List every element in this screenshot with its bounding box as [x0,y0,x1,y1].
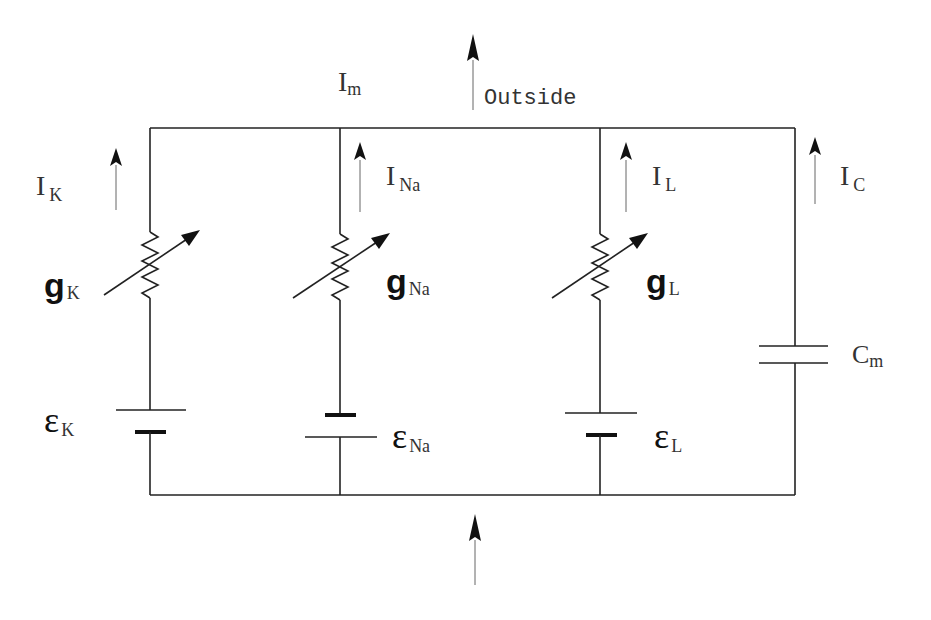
capacitive-current-label: IC [840,162,865,190]
sodium-branch [293,128,390,495]
outside-label: Outside [484,88,576,110]
label-sub: Na [399,175,420,195]
label-main: C [852,340,869,369]
variable-arrow-icon [104,237,190,295]
label-main: g [386,262,407,300]
capacitor-branch [759,128,828,495]
leak-branch [552,128,648,495]
circuit-diagram [0,0,931,620]
sodium-conductance-label: gNa [386,264,430,298]
label-sub: K [67,283,80,303]
membrane-current-label: Im [338,68,361,96]
label-sub: m [869,351,883,371]
label-main: I [386,160,395,191]
capacitive-current-arrow-icon [809,137,821,204]
label-sub: L [669,279,680,299]
label-sub: m [347,79,361,99]
potassium-emf-label: εK [44,402,74,438]
resistor-icon [592,234,608,300]
leak-emf-label: εL [654,418,682,454]
label-main: I [840,160,849,191]
sodium-current-arrow-icon [354,142,366,212]
membrane-capacitance-label: Cm [852,342,883,368]
label-sub: Na [409,436,430,456]
leak-current-arrow-icon [620,142,632,212]
label-sub: Na [409,279,430,299]
sodium-emf-label: εNa [392,418,430,454]
label-main: I [36,170,45,201]
label-main: I [652,160,661,191]
potassium-conductance-label: gK [44,268,80,302]
potassium-current-arrow-icon [110,148,122,210]
outside-current-arrow-icon [467,34,479,110]
label-sub: C [853,175,865,195]
sodium-current-label: INa [386,162,420,190]
label-sub: K [49,185,62,205]
label-main: g [44,266,65,304]
leak-conductance-label: gL [646,264,680,298]
label-main: ε [654,416,669,456]
label-sub: L [671,436,682,456]
resistor-icon [142,232,158,298]
label-main: I [338,66,347,97]
potassium-branch [104,128,200,495]
label-main: ε [44,400,59,440]
label-sub: K [61,420,74,440]
label-sub: L [665,175,676,195]
leak-current-label: IL [652,162,676,190]
label-main: g [646,262,667,300]
label-main: ε [392,416,407,456]
potassium-current-label: IK [36,172,62,200]
inward-current-arrow-icon [469,514,481,585]
